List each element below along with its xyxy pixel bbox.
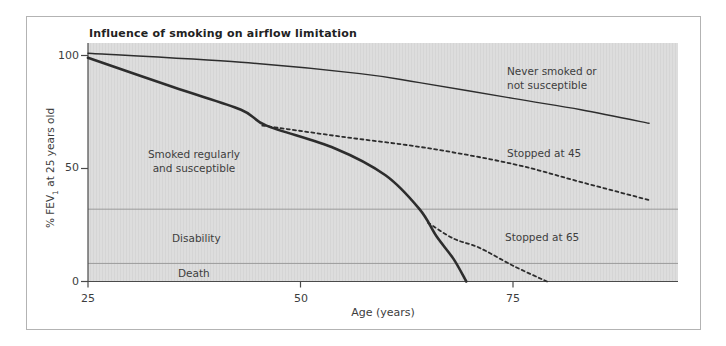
label-stopped-at-65: Stopped at 65 (505, 230, 579, 244)
chart-canvas (0, 0, 726, 346)
y-axis-title-prefix: % FEV (44, 195, 56, 228)
label-never-smoked-line2: not susceptible (507, 78, 597, 92)
label-disability-zone: Disability (172, 231, 221, 245)
x-axis-tick-label-75: 75 (493, 292, 533, 305)
y-axis-title-suffix: at 25 years old (44, 108, 56, 190)
x-axis-title: Age (years) (322, 306, 444, 319)
label-stopped-at-45: Stopped at 45 (507, 146, 581, 160)
label-smoked-regularly-line2: and susceptible (142, 161, 246, 175)
label-smoked-regularly-line1: Smoked regularly (142, 147, 246, 161)
label-never-smoked-line1: Never smoked or (507, 64, 597, 78)
y-axis-tick-label-100: 100 (45, 49, 79, 62)
curve-stopped-at-45 (262, 126, 649, 201)
y-axis-tick-label-0: 0 (45, 275, 79, 288)
x-axis-tick-label-50: 50 (281, 292, 321, 305)
x-axis-tick-label-25: 25 (68, 292, 108, 305)
label-smoked-regularly: Smoked regularly and susceptible (142, 147, 246, 175)
y-axis-title: % FEV1 at 25 years old (44, 108, 59, 228)
y-axis-title-subscript: 1 (51, 190, 60, 195)
label-never-smoked: Never smoked or not susceptible (507, 64, 597, 92)
label-death-zone: Death (178, 266, 210, 280)
figure: Influence of smoking on airflow limitati… (0, 0, 726, 346)
